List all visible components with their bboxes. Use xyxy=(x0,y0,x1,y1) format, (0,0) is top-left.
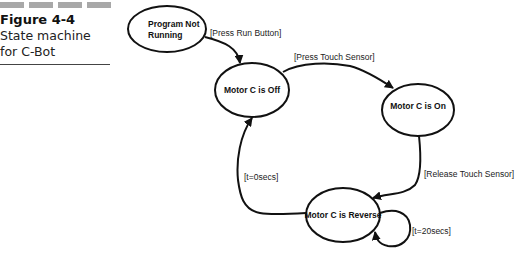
state-label: Motor C is On xyxy=(390,101,446,111)
state-motor-on: Motor C is On xyxy=(382,84,454,136)
state-machine-diagram: Program Not Running Motor C is Off Motor… xyxy=(0,0,517,264)
state-label-line2: Running xyxy=(148,30,182,40)
transition-label: [t=20secs] xyxy=(412,226,451,236)
arrow-icon xyxy=(283,64,393,88)
state-label: Motor C is Off xyxy=(224,85,280,95)
transition-press-touch-sensor: [Press Touch Sensor] xyxy=(283,52,393,88)
state-label: Motor C is Reverse xyxy=(305,210,382,220)
transition-release-touch-sensor: [Release Touch Sensor] xyxy=(373,136,514,198)
transition-label: [Press Run Button] xyxy=(210,28,281,38)
transition-t20secs: [t=20secs] xyxy=(375,211,451,246)
transition-label: [Release Touch Sensor] xyxy=(424,169,514,179)
transition-label: [t=0secs] xyxy=(244,172,278,182)
state-motor-reverse: Motor C is Reverse xyxy=(305,188,382,242)
transition-label: [Press Touch Sensor] xyxy=(294,52,375,62)
state-motor-off: Motor C is Off xyxy=(215,63,289,117)
state-program-not-running: Program Not Running xyxy=(128,6,206,52)
arrow-icon xyxy=(373,136,420,198)
arrow-icon xyxy=(205,37,240,63)
transition-t0secs: [t=0secs] xyxy=(238,118,306,214)
transition-press-run-button: [Press Run Button] xyxy=(205,28,281,63)
state-label-line1: Program Not xyxy=(148,19,200,29)
arrow-icon xyxy=(238,118,306,214)
